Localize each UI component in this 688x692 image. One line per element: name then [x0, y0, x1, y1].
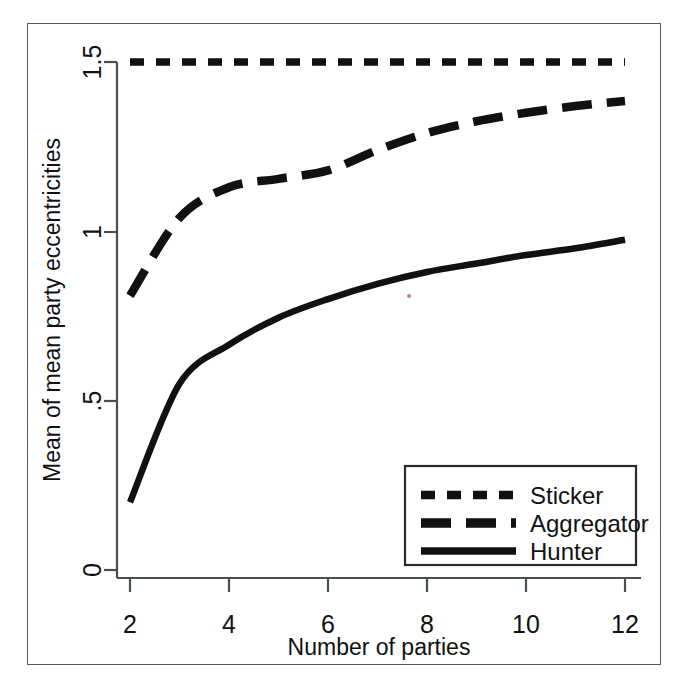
y-tick-label-1.5: 1.5 [78, 45, 106, 80]
y-tick-label-1: 1 [78, 225, 106, 239]
series-line-aggregator [130, 101, 625, 296]
plot-series-group [130, 62, 625, 502]
legend-label-aggregator: Aggregator [530, 510, 649, 537]
line-chart: 1.5 1 .5 0 Mean of mean party eccentrici… [0, 0, 688, 692]
series-line-hunter [130, 240, 625, 502]
scan-speck [407, 294, 411, 298]
x-tick-label-2: 2 [123, 610, 137, 638]
y-tick-label-0.5: .5 [78, 391, 106, 412]
legend-label-sticker: Sticker [530, 482, 603, 509]
figure-container: 1.5 1 .5 0 Mean of mean party eccentrici… [0, 0, 688, 692]
y-tick-label-0: 0 [78, 563, 106, 577]
x-tick-label-4: 4 [222, 610, 236, 638]
legend-label-hunter: Hunter [530, 538, 602, 565]
x-axis-title: Number of parties [288, 634, 471, 660]
legend: Sticker Aggregator Hunter [405, 466, 649, 565]
x-tick-label-12: 12 [611, 610, 639, 638]
x-tick-label-10: 10 [512, 610, 540, 638]
y-axis-title: Mean of mean party eccentricities [39, 138, 65, 482]
